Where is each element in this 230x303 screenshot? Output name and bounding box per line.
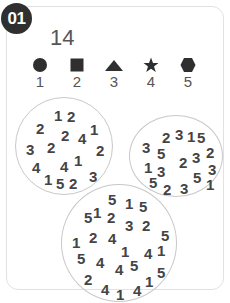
circle-number: 1 — [44, 172, 52, 187]
circle-number: 3 — [142, 140, 150, 155]
hexagon-icon — [180, 57, 196, 73]
circle-number: 1 — [206, 177, 214, 192]
circle-number: 4 — [60, 159, 68, 174]
circle-number: 5 — [197, 130, 205, 145]
circle-number: 3 — [175, 127, 183, 142]
circle-number: 1 — [121, 244, 129, 259]
circle-number: 2 — [47, 140, 55, 155]
circle-number: 4 — [115, 262, 123, 277]
circle-number: 3 — [157, 164, 165, 179]
circle-number: 2 — [36, 121, 44, 136]
circle-number: 5 — [161, 228, 169, 243]
circle-number: 1 — [116, 287, 124, 302]
circle-number: 1 — [157, 243, 165, 258]
circle-number: 1 — [90, 122, 98, 137]
circle-number: 5 — [108, 192, 116, 207]
circle-number: 2 — [67, 109, 75, 124]
number-circle-2: 23153252313351523 — [129, 115, 223, 197]
target-number: 14 — [50, 25, 74, 51]
circle-number: 5 — [56, 176, 64, 191]
circle-number: 5 — [139, 199, 147, 214]
circle-number: 2 — [96, 143, 104, 158]
star-icon — [143, 57, 159, 73]
triangle-icon — [104, 57, 124, 73]
circle-number: 5 — [149, 175, 157, 190]
shape-legend: 1 2 3 4 5 — [25, 57, 225, 97]
circle-icon — [32, 57, 48, 73]
circle-number: 2 — [84, 272, 92, 287]
circle-number: 1 — [72, 235, 80, 250]
circle-number: 2 — [61, 128, 69, 143]
legend-item-3: 3 — [99, 57, 129, 90]
circle-number: 3 — [180, 181, 188, 196]
circle-number: 1 — [125, 196, 133, 211]
circle-number: 2 — [107, 210, 115, 225]
circle-number: 1 — [93, 205, 101, 220]
number-circle-1: 1221243221443152 — [15, 97, 113, 195]
circle-number: 4 — [96, 255, 104, 270]
circle-number: 4 — [108, 231, 116, 246]
circle-number: 5 — [157, 265, 165, 280]
circle-number: 5 — [77, 251, 85, 266]
circle-number: 1 — [54, 108, 62, 123]
puzzle-card: 14 1 2 3 4 5 1221243221443152 2315325231… — [6, 6, 224, 290]
circle-number: 5 — [130, 258, 138, 273]
circle-number: 5 — [84, 210, 92, 225]
circle-number: 2 — [179, 155, 187, 170]
puzzle-number-badge: 01 — [1, 3, 32, 34]
circle-number: 4 — [78, 131, 86, 146]
circle-number: 1 — [144, 160, 152, 175]
circle-number: 3 — [26, 142, 34, 157]
circle-number: 2 — [162, 130, 170, 145]
circle-number: 5 — [157, 146, 165, 161]
circle-number: 1 — [187, 129, 195, 144]
legend-item-2: 2 — [62, 57, 92, 90]
legend-item-1: 1 — [25, 57, 55, 90]
circle-number: 2 — [89, 230, 97, 245]
circle-number: 4 — [144, 246, 152, 261]
circle-number: 4 — [32, 160, 40, 175]
circle-number: 1 — [74, 153, 82, 168]
square-icon — [69, 57, 85, 73]
circle-number: 2 — [69, 176, 77, 191]
legend-item-5: 5 — [173, 57, 203, 90]
legend-item-4: 4 — [136, 57, 166, 90]
circle-number: 4 — [101, 282, 109, 297]
circle-number: 4 — [133, 283, 141, 298]
circle-number: 3 — [89, 169, 97, 184]
circle-number: 3 — [125, 218, 133, 233]
number-circle-3: 5155123251241415445521414 — [61, 184, 177, 302]
circle-number: 3 — [208, 162, 216, 177]
circle-number: 2 — [163, 182, 171, 197]
circle-number: 5 — [193, 170, 201, 185]
circle-number: 2 — [142, 218, 150, 233]
circle-number: 1 — [145, 274, 153, 289]
circle-number: 3 — [192, 150, 200, 165]
circle-number: 2 — [206, 145, 214, 160]
